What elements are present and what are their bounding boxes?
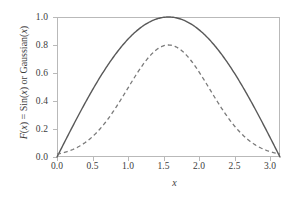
chart-figure: 1.0 0.8 0.6 0.4 0.2 0.0 0.0 0.5 1.0 1.5 … xyxy=(0,0,297,197)
y-axis-title-rest: ) = Sin( xyxy=(18,95,29,126)
y-axis-title-var: x xyxy=(18,125,29,129)
y-axis-title-rest3: ) xyxy=(18,26,29,29)
curve-gaussian xyxy=(57,45,280,154)
curve-sin xyxy=(57,17,280,157)
y-axis-title-var3: x xyxy=(18,29,29,33)
x-tick-label: 3.0 xyxy=(255,162,285,172)
x-tick-label: 1.5 xyxy=(149,162,179,172)
y-axis-title: F(x) = Sin(x) or Gaussian(x) xyxy=(18,3,29,163)
x-tick-label: 2.0 xyxy=(184,162,214,172)
y-axis-title-paren: ( xyxy=(18,130,29,133)
y-axis-title-var2: x xyxy=(18,90,29,94)
x-tick-label: 1.0 xyxy=(113,162,143,172)
y-axis-title-rest2: ) or Gaussian( xyxy=(18,34,29,91)
plot-curves xyxy=(57,17,280,157)
x-axis-title: x xyxy=(0,177,297,188)
x-tick-label: 0.0 xyxy=(42,162,72,172)
x-tick-label: 0.5 xyxy=(78,162,108,172)
y-axis-title-symbol: F xyxy=(18,133,29,139)
x-tick-label: 2.5 xyxy=(220,162,250,172)
x-axis-title-text: x xyxy=(172,177,176,188)
